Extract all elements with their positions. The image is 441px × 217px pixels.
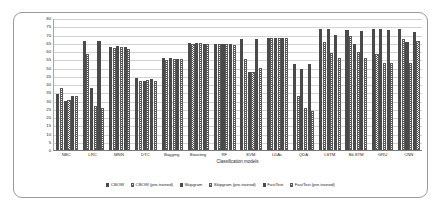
bar-group	[396, 19, 422, 150]
x-axis-tick-label: Bagging	[158, 152, 184, 158]
plot-wrapper: 80757065605550454035302520151050 NBCLRCM…	[36, 19, 422, 167]
bar	[383, 63, 386, 150]
bar	[154, 81, 157, 150]
legend-label: CBOW (pre-trained)	[136, 182, 173, 188]
y-axis-tick-label: 65	[46, 42, 51, 46]
y-axis-tick-label: 50	[46, 66, 51, 70]
bar	[109, 47, 112, 150]
y-axis-tick-label: 15	[46, 124, 51, 128]
bar	[116, 46, 119, 150]
bar	[143, 81, 146, 150]
bar-group	[159, 19, 185, 150]
bar	[278, 38, 281, 150]
legend-item[interactable]: CBOW	[106, 182, 124, 188]
bar	[311, 111, 314, 150]
bar-group	[212, 19, 238, 150]
bar	[357, 52, 360, 150]
x-axis-tick-label: RF	[211, 152, 237, 158]
plot-area	[53, 19, 422, 151]
bar	[319, 29, 322, 150]
y-axis-tick-label: 70	[46, 33, 51, 37]
x-axis-title: Classification models	[53, 159, 422, 165]
bar	[413, 32, 416, 150]
bar-group	[369, 19, 395, 150]
bar	[338, 58, 341, 150]
x-axis-tick-label: GRU	[369, 152, 395, 158]
bar	[113, 48, 116, 150]
bar	[300, 69, 303, 150]
bar	[402, 39, 405, 150]
bar	[94, 106, 97, 150]
bar	[274, 38, 277, 150]
bar	[353, 44, 356, 150]
bar-group	[80, 19, 106, 150]
bar	[101, 108, 104, 150]
bar-group	[264, 19, 290, 150]
bar-group	[133, 19, 159, 150]
bar	[120, 47, 123, 150]
y-axis-tick-label: 45	[46, 75, 51, 79]
y-axis: 80757065605550454035302520151050	[36, 19, 51, 151]
chart-frame: 80757065605550454035302520151050 NBCLRCM…	[13, 12, 428, 198]
legend-item[interactable]: FastText	[263, 182, 283, 188]
bar-group	[238, 19, 264, 150]
legend-swatch-icon	[290, 183, 293, 186]
bar	[139, 81, 142, 150]
legend-label: FastText	[267, 182, 283, 188]
bar	[297, 96, 300, 150]
y-axis-tick-label: 80	[46, 17, 51, 21]
bar	[364, 58, 367, 150]
bar	[162, 58, 165, 150]
bar	[127, 49, 130, 150]
bar	[255, 39, 258, 150]
legend-swatch-icon	[131, 183, 134, 186]
bar	[135, 78, 138, 150]
y-axis-tick-label: 35	[46, 91, 51, 95]
legend-item[interactable]: CBOW (pre-trained)	[131, 182, 173, 188]
y-axis-tick-label: 60	[46, 50, 51, 54]
bar	[203, 44, 206, 150]
bar	[188, 43, 191, 150]
bar	[293, 64, 296, 150]
y-axis-tick-label: 25	[46, 108, 51, 112]
bar	[199, 43, 202, 150]
x-axis-tick-label: DTC	[132, 152, 158, 158]
bar	[221, 44, 224, 150]
x-axis-tick-label: SVM	[238, 152, 264, 158]
bar	[240, 39, 243, 150]
bar	[191, 44, 194, 150]
bar-group	[343, 19, 369, 150]
legend-item[interactable]: Skipgram	[180, 182, 202, 188]
bar	[233, 45, 236, 150]
bar	[390, 63, 393, 150]
y-axis-tick-label: 20	[46, 116, 51, 120]
bar	[218, 44, 221, 150]
bar	[229, 44, 232, 150]
bar	[206, 44, 209, 150]
bar	[270, 38, 273, 150]
bar	[146, 80, 149, 150]
bar	[375, 54, 378, 150]
bar	[259, 68, 262, 151]
bar	[349, 36, 352, 150]
x-axis-tick-labels: NBCLRCMNNDTCBaggingBoostingRFSVMLDAcQDAL…	[53, 152, 422, 158]
bar	[304, 108, 307, 150]
bar	[97, 41, 100, 150]
bar	[56, 94, 59, 150]
bar	[379, 29, 382, 150]
bar-group	[185, 19, 211, 150]
y-axis-tick-label: 10	[46, 132, 51, 136]
bar-group	[54, 19, 80, 150]
y-axis-tick-label: 5	[49, 141, 51, 145]
legend-item[interactable]: Skipgram (pre-trained)	[209, 182, 255, 188]
y-axis-tick-label: 30	[46, 99, 51, 103]
bar	[165, 60, 168, 150]
bar	[285, 38, 288, 150]
legend-item[interactable]: FastText (pre-trained)	[290, 182, 335, 188]
bar	[124, 47, 127, 150]
bar	[330, 53, 333, 150]
chart-figure: 80757065605550454035302520151050 NBCLRCM…	[0, 0, 441, 217]
bar	[90, 88, 93, 150]
bar	[267, 38, 270, 150]
bar	[225, 44, 228, 150]
